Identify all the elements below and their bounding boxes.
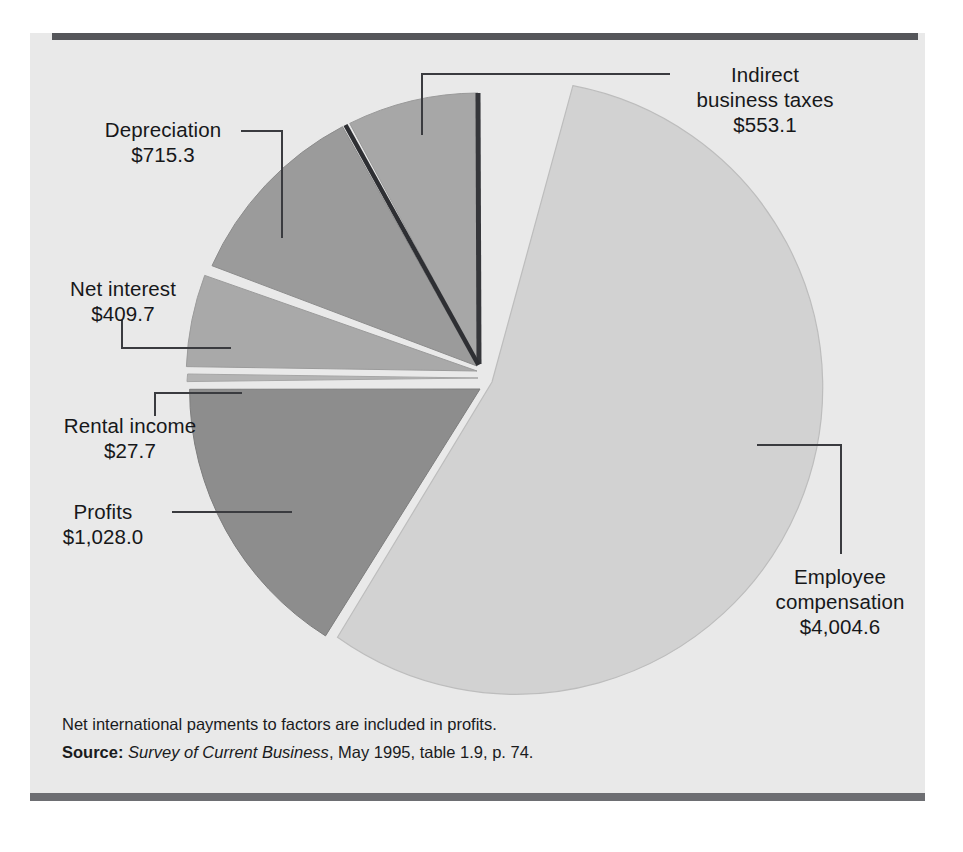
leader-employee-comp-h [757,444,841,446]
leader-indirect-taxes-h [421,73,670,75]
label-net-interest: Net interest $409.7 [53,276,193,326]
label-employee-comp-line2: compensation [740,589,940,614]
leader-rental-income-h [154,392,242,394]
label-net-interest-value: $409.7 [53,301,193,326]
label-indirect-taxes-line2: business taxes [660,87,870,112]
source-note: Source: Survey of Current Business, May … [62,740,762,764]
leader-net-interest-h [121,347,231,349]
figure-page: Indirect business taxes $553.1 Depreciat… [0,0,963,852]
label-depreciation-line1: Depreciation [88,117,238,142]
footnote: Net international payments to factors ar… [62,712,762,736]
label-rental-income-value: $27.7 [46,438,214,463]
label-rental-income-line1: Rental income [46,413,214,438]
label-depreciation: Depreciation $715.3 [88,117,238,167]
leader-depreciation-v [281,130,283,238]
slice-rental-income[interactable] [187,374,478,382]
label-employee-compensation: Employee compensation $4,004.6 [740,564,940,639]
leader-depreciation-h [241,130,283,132]
source-publication: Survey of Current Business [128,743,329,761]
label-profits-value: $1,028.0 [44,524,162,549]
label-depreciation-value: $715.3 [88,142,238,167]
source-rest: , May 1995, table 1.9, p. 74. [329,743,534,761]
label-employee-comp-line1: Employee [740,564,940,589]
label-profits: Profits $1,028.0 [44,499,162,549]
label-rental-income: Rental income $27.7 [46,413,214,463]
label-profits-line1: Profits [44,499,162,524]
leader-indirect-taxes-v [421,73,423,135]
leader-employee-comp-v [840,444,842,554]
label-employee-comp-value: $4,004.6 [740,614,940,639]
leader-profits-h [172,511,292,513]
indirect-taxes-divider [478,93,479,364]
label-net-interest-line1: Net interest [53,276,193,301]
label-indirect-taxes-value: $553.1 [660,112,870,137]
source-label: Source: [62,743,123,761]
label-indirect-business-taxes: Indirect business taxes $553.1 [660,62,870,137]
chart-notes: Net international payments to factors ar… [62,712,762,764]
label-indirect-taxes-line1: Indirect [660,62,870,87]
